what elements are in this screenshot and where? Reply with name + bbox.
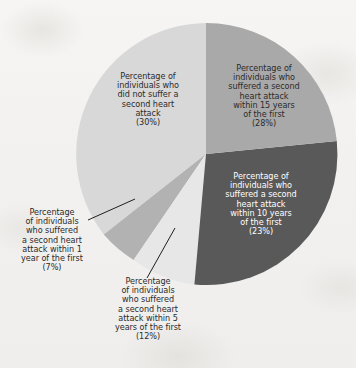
- pie-label-no-second-attack: Percentage of individuals who did not su…: [92, 72, 204, 127]
- pie-label-within-15-years: Percentage of individuals who suffered a…: [212, 64, 316, 129]
- pie-label-within-1-year: Percentage of individuals who suffered a…: [2, 208, 102, 273]
- pie-label-within-5-years: Percentage of individuals who suffered a…: [95, 277, 201, 342]
- pie-label-within-10-years: Percentage of individuals who suffered a…: [209, 172, 313, 237]
- chart-page: Percentage of individuals who did not su…: [0, 0, 356, 368]
